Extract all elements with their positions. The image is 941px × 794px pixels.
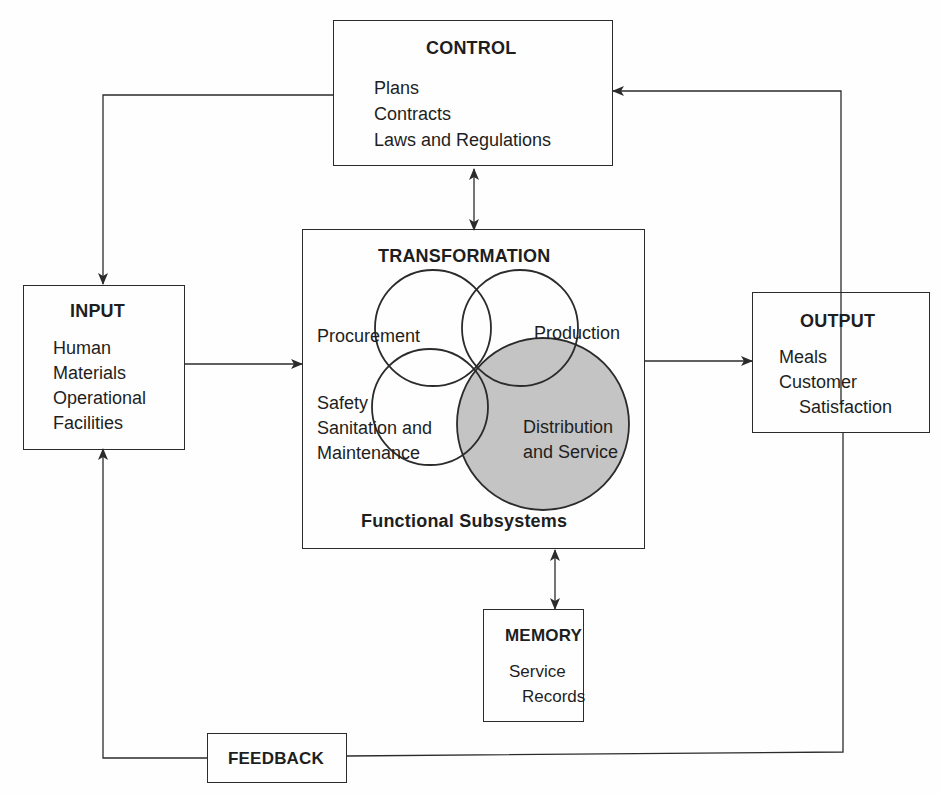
input-item: Human <box>53 339 111 357</box>
control-box: CONTROL Plans Contracts Laws and Regulat… <box>333 20 613 166</box>
feedback-title: FEEDBACK <box>228 749 324 769</box>
memory-item: Records <box>522 688 585 705</box>
output-item: Meals <box>779 348 827 366</box>
control-to-input-line <box>103 95 333 284</box>
memory-item: Service <box>509 663 566 680</box>
procurement-label: Procurement <box>317 327 420 345</box>
input-title: INPUT <box>70 301 125 322</box>
output-title: OUTPUT <box>800 311 875 332</box>
input-item: Operational <box>53 389 146 407</box>
output-item: Customer <box>779 373 857 391</box>
distribution-label: Distribution <box>523 418 613 436</box>
control-item: Contracts <box>374 105 451 123</box>
input-item: Materials <box>53 364 126 382</box>
systems-model-diagram: CONTROL Plans Contracts Laws and Regulat… <box>0 0 941 794</box>
feedback-box: FEEDBACK <box>207 733 347 783</box>
safety-label: Safety <box>317 394 368 412</box>
production-label: Production <box>534 324 620 342</box>
control-item: Laws and Regulations <box>374 131 551 149</box>
control-item: Plans <box>374 79 419 97</box>
input-box: INPUT Human Materials Operational Facili… <box>23 285 185 450</box>
transformation-box: TRANSFORMATION Functional Subsystems <box>302 229 645 549</box>
service-label: and Service <box>523 443 618 461</box>
sanitation-label: Sanitation and <box>317 419 432 437</box>
transformation-title: TRANSFORMATION <box>378 246 550 267</box>
output-item: Satisfaction <box>799 398 892 416</box>
memory-title: MEMORY <box>505 626 582 646</box>
functional-subsystems-label: Functional Subsystems <box>361 511 567 532</box>
feedback-to-input-line <box>103 449 207 758</box>
control-title: CONTROL <box>426 38 516 59</box>
input-item: Facilities <box>53 414 123 432</box>
maintenance-label: Maintenance <box>317 444 420 462</box>
output-box: OUTPUT Meals Customer Satisfaction <box>752 292 930 433</box>
memory-box: MEMORY Service Records <box>483 609 584 722</box>
